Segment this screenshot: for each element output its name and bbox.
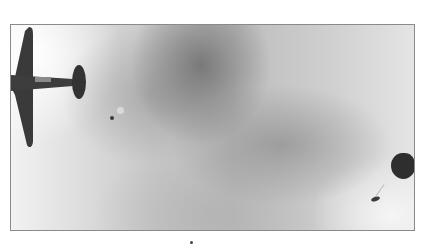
aircraft-silhouette bbox=[11, 25, 101, 155]
small-canopy bbox=[117, 107, 124, 114]
parachute-canopy bbox=[391, 153, 415, 179]
parachutist bbox=[371, 196, 381, 203]
photograph bbox=[10, 24, 415, 231]
distant-parachutist bbox=[110, 116, 114, 120]
speck bbox=[190, 241, 193, 244]
